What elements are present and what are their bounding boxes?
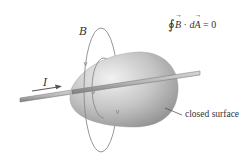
- closed-surface-label: closed surface: [185, 109, 239, 119]
- field-label-B: B: [79, 25, 87, 38]
- current-label-I: I: [43, 76, 47, 89]
- wire-rod: [20, 90, 72, 102]
- area-vector-A: A: [194, 19, 200, 30]
- field-vector-B: B: [175, 19, 181, 30]
- gauss-magnetism-equation: ∮B · dA = 0: [168, 16, 216, 32]
- dot-operator: ·: [184, 19, 187, 30]
- closed-integral-symbol: ∮: [168, 17, 175, 32]
- equals-zero: = 0: [203, 19, 216, 30]
